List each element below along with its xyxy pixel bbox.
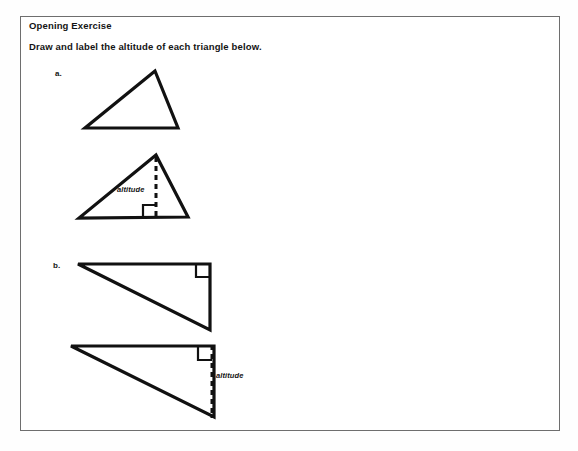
triangle-outline <box>85 71 178 128</box>
page-title: Opening Exercise <box>29 20 112 31</box>
triangle-outline <box>71 346 214 417</box>
right-angle-marker-icon <box>143 205 156 217</box>
right-angle-marker-icon <box>196 264 209 277</box>
instruction-text: Draw and label the altitude of each tria… <box>29 41 262 52</box>
worksheet-page: Opening Exercise Draw and label the alti… <box>0 0 578 451</box>
figure-acute-triangle-plain <box>60 58 200 138</box>
triangle-outline <box>78 264 210 330</box>
altitude-label-a: altitude <box>117 185 144 194</box>
figure-right-triangle-plain <box>60 252 225 342</box>
right-angle-marker-icon <box>198 346 212 360</box>
altitude-label-b: altitude <box>216 371 243 380</box>
figure-right-triangle-with-altitude <box>55 336 230 428</box>
